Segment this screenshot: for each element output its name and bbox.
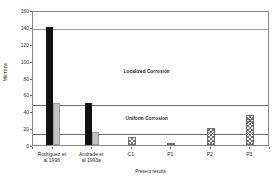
y-tick-label: 0 <box>26 144 29 149</box>
x-tick-label-line: P1 <box>167 151 173 157</box>
x-tick-label: P2 <box>207 151 213 157</box>
x-tick-label: P1 <box>167 151 173 157</box>
x-axis-boundary-tick <box>269 147 270 149</box>
region-annotation: Uniform Corrosion <box>125 116 168 121</box>
x-tick-label-line: al 1996 <box>38 157 66 163</box>
bar <box>128 137 136 145</box>
y-tick-label: 120 <box>21 42 29 47</box>
bar <box>53 103 60 145</box>
x-tick-mark <box>249 147 250 149</box>
x-tick-label-line: C1 <box>128 151 134 157</box>
region-annotation: Localized Corrosion <box>124 69 170 74</box>
y-tick-label: 100 <box>21 59 29 64</box>
bar <box>207 128 215 145</box>
y-axis-title: Microns <box>2 50 8 94</box>
x-tick-label: Andrade etal 1993a <box>79 151 103 163</box>
x-tick-label: C1 <box>128 151 134 157</box>
x-tick-mark <box>170 147 171 149</box>
x-tick-mark <box>91 147 92 149</box>
bar <box>46 27 53 145</box>
y-axis: Microns 020406080100120140160 <box>0 11 32 147</box>
corrosion-bar-chart: Microns 020406080100120140160 Localized … <box>0 0 279 184</box>
x-axis-boundary-tick <box>32 147 33 149</box>
x-axis: Present results Rodriguez etal 1996Andra… <box>32 147 269 184</box>
y-tick-label: 60 <box>23 93 29 98</box>
bar <box>167 143 175 145</box>
x-tick-mark <box>52 147 53 149</box>
y-tick-label: 20 <box>23 127 29 132</box>
x-tick-mark <box>131 147 132 149</box>
y-tick-label: 80 <box>23 76 29 81</box>
x-tick-label-line: P3 <box>246 151 252 157</box>
bar <box>85 103 92 145</box>
y-tick-label: 40 <box>23 110 29 115</box>
x-tick-mark <box>210 147 211 149</box>
bar <box>92 132 99 145</box>
x-tick-label: P3 <box>246 151 252 157</box>
threshold-line <box>33 105 268 106</box>
x-tick-label-line: al 1993a <box>79 157 103 163</box>
x-tick-label-line: P2 <box>207 151 213 157</box>
plot-area: Localized CorrosionUniform Corrosion <box>32 11 269 146</box>
bar <box>246 115 254 145</box>
gridline <box>33 29 268 30</box>
threshold-line <box>33 134 268 135</box>
x-axis-title: Present results <box>32 169 269 174</box>
x-tick-label: Rodriguez etal 1996 <box>38 151 66 163</box>
y-tick-label: 140 <box>21 25 29 30</box>
y-tick-label: 160 <box>21 9 29 14</box>
